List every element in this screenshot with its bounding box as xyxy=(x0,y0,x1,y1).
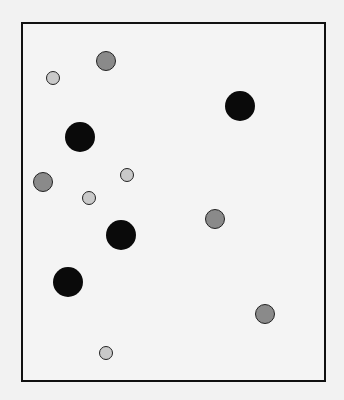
large-circle-icon[interactable] xyxy=(106,220,136,250)
medium-circle-icon[interactable] xyxy=(96,51,116,71)
medium-circle-icon[interactable] xyxy=(255,304,275,324)
small-circle-icon[interactable] xyxy=(99,346,113,360)
medium-circle-icon[interactable] xyxy=(205,209,225,229)
puzzle-frame xyxy=(21,22,326,382)
large-circle-icon[interactable] xyxy=(225,91,255,121)
large-circle-icon[interactable] xyxy=(65,122,95,152)
small-circle-icon[interactable] xyxy=(120,168,134,182)
large-circle-icon[interactable] xyxy=(53,267,83,297)
small-circle-icon[interactable] xyxy=(82,191,96,205)
medium-circle-icon[interactable] xyxy=(33,172,53,192)
small-circle-icon[interactable] xyxy=(46,71,60,85)
